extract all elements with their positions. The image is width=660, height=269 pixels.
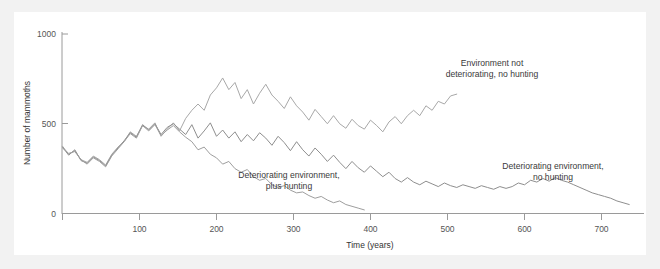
annotation-top-line2: deteriorating, no hunting bbox=[446, 69, 539, 79]
y-tick-label-500: 500 bbox=[42, 119, 56, 129]
series-group bbox=[63, 78, 630, 210]
annotation-top-line1: Environment not bbox=[461, 58, 524, 68]
line-chart: 1000 500 0 100 200 300 400 500 600 700 T… bbox=[0, 0, 660, 269]
x-tick-label-600: 600 bbox=[517, 224, 531, 234]
annotation-deteriorating-no-hunting: Deteriorating environment, no hunting bbox=[502, 161, 603, 182]
y-tick-label-0: 0 bbox=[51, 209, 56, 219]
y-tick-label-1000: 1000 bbox=[37, 29, 56, 39]
x-tick-label-100: 100 bbox=[132, 224, 146, 234]
y-axis-title: Number of mammoths bbox=[22, 81, 32, 165]
annotation-hunting-line1: Deteriorating environment, bbox=[238, 170, 339, 180]
annotation-nohunt-line1: Deteriorating environment, bbox=[502, 161, 603, 171]
x-tick-label-200: 200 bbox=[209, 224, 223, 234]
x-tick-label-400: 400 bbox=[363, 224, 377, 234]
series-line bbox=[63, 78, 457, 165]
x-tick-label-700: 700 bbox=[594, 224, 608, 234]
x-tick-label-500: 500 bbox=[440, 224, 454, 234]
annotation-hunting-line2: plus hunting bbox=[266, 181, 313, 191]
annotation-environment-not-deteriorating: Environment not deteriorating, no huntin… bbox=[446, 58, 539, 79]
chart-figure: 1000 500 0 100 200 300 400 500 600 700 T… bbox=[0, 0, 660, 269]
x-tick-label-300: 300 bbox=[286, 224, 300, 234]
annotation-deteriorating-plus-hunting: Deteriorating environment, plus hunting bbox=[238, 170, 339, 191]
annotation-nohunt-line2: no hunting bbox=[533, 172, 573, 182]
series-line bbox=[63, 125, 365, 210]
x-axis-title: Time (years) bbox=[346, 240, 394, 250]
